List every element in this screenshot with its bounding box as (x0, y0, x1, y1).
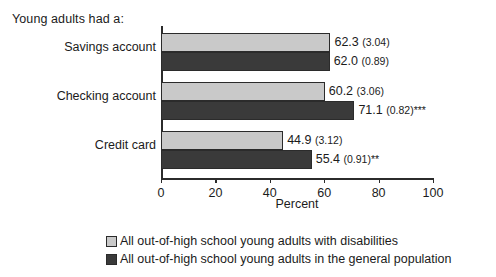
bar-savings-general (161, 52, 330, 71)
legend-swatch-icon-light (106, 236, 117, 247)
x-axis-tick (324, 178, 325, 183)
bar-savings-disabilities (161, 33, 330, 52)
category-label-checking-account: Checking account (8, 89, 156, 103)
x-axis-tick (161, 178, 162, 183)
bar-value-number: 60.2 (329, 84, 353, 98)
x-axis-title: Percent (161, 197, 433, 211)
x-axis-tick (270, 178, 271, 183)
bar-value-number: 55.4 (316, 152, 340, 166)
bar-value-number: 44.9 (287, 133, 311, 147)
legend-item-general-population: All out-of-high school young adults in t… (106, 251, 451, 267)
bar-value-number: 62.0 (334, 54, 358, 68)
bar-value-se: (0.91) (344, 153, 371, 165)
bar-value-se: (3.12) (315, 134, 342, 146)
x-axis-tick (379, 178, 380, 183)
x-axis-line (161, 178, 433, 180)
legend: All out-of-high school young adults with… (106, 233, 451, 269)
x-axis-tick (215, 178, 216, 183)
bar-value-number: 62.3 (334, 35, 358, 49)
bar-credit-disabilities (161, 131, 283, 150)
legend-item-disabilities: All out-of-high school young adults with… (106, 233, 451, 249)
bar-value-se: (3.06) (357, 85, 384, 97)
category-label-savings-account: Savings account (8, 40, 156, 54)
plot-area: 020406080100 62.3 (3.04) 62.0 (0.89) 60.… (161, 26, 433, 178)
bar-label-savings-disabilities: 62.3 (3.04) (334, 33, 389, 52)
bar-label-credit-disabilities: 44.9 (3.12) (287, 131, 342, 150)
x-axis-tick (433, 178, 434, 183)
bar-value-se: (0.89) (361, 55, 388, 67)
bar-label-checking-general: 71.1 (0.82)*** (358, 101, 426, 120)
bar-value-number: 71.1 (358, 103, 382, 117)
bar-value-se: (0.82) (386, 104, 413, 116)
bar-value-stars: *** (414, 104, 426, 116)
bar-checking-general (161, 101, 354, 120)
bar-checking-disabilities (161, 82, 325, 101)
bar-label-checking-disabilities: 60.2 (3.06) (329, 82, 384, 101)
category-label-credit-card: Credit card (8, 138, 156, 152)
legend-label-general-population: All out-of-high school young adults in t… (120, 252, 451, 266)
bar-credit-general (161, 150, 312, 169)
legend-label-disabilities: All out-of-high school young adults with… (120, 234, 398, 248)
bar-label-savings-general: 62.0 (0.89) (334, 52, 389, 71)
bar-value-stars: ** (371, 153, 379, 165)
bar-chart: Young adults had a: Savings account Chec… (0, 0, 496, 277)
bar-label-credit-general: 55.4 (0.91)** (316, 150, 379, 169)
chart-caption: Young adults had a: (12, 12, 124, 26)
bar-value-se: (3.04) (362, 36, 389, 48)
legend-swatch-icon-dark (106, 254, 117, 265)
